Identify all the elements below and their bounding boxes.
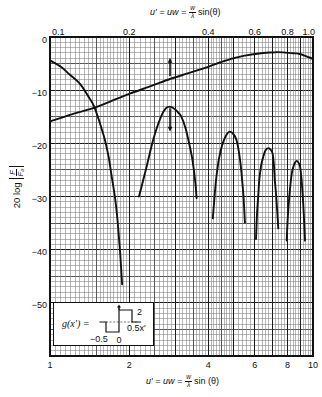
fraction-denominator: F₀ — [17, 169, 24, 177]
bottom-axis-title-lhs: u′ = uw = — [146, 376, 182, 386]
x-tick-label-top: 0.8 — [281, 27, 294, 37]
x-tick-label-top: 0.2 — [123, 27, 136, 37]
x-tick-label-top: 1.0 — [302, 27, 315, 37]
y-tick-label: −50 — [32, 300, 47, 310]
inset-label-origin: 0 — [116, 335, 121, 345]
bottom-axis-title-rhs: sin (θ) — [194, 376, 219, 386]
inset-function-label: g(x′) = — [62, 318, 90, 330]
fraction-denominator: λ — [191, 13, 194, 20]
inset-function-diagram: g(x′) =20.5x′−0.50 — [53, 302, 153, 345]
x-tick-label-bottom: 10 — [308, 360, 318, 370]
y-tick-label: −10 — [32, 88, 47, 98]
inset-label-right-x: 0.5x′ — [127, 323, 146, 333]
y-axis-title-prefix: 20 log — [11, 182, 22, 208]
series-curve-4 — [213, 132, 245, 223]
top-axis-title-fraction: w λ — [189, 5, 196, 19]
top-axis-title-rhs: sin(θ) — [198, 7, 221, 17]
y-tick-label: −40 — [32, 247, 47, 257]
x-tick-label-top: 0.1 — [52, 27, 65, 37]
bottom-axis-title-fraction: w λ — [185, 374, 192, 388]
series-curve-5 — [256, 148, 278, 239]
x-tick-label-bottom: 6 — [252, 360, 257, 370]
x-tick-label-bottom: 1 — [47, 360, 52, 370]
x-tick-label-top: 0.4 — [202, 27, 215, 37]
y-tick-label: −20 — [32, 141, 47, 151]
y-tick-label: 0 — [42, 35, 47, 45]
fraction-denominator: λ — [187, 382, 190, 389]
chart-figure: g(x′) =20.5x′−0.50 0−10−20−30−40−5012468… — [0, 0, 322, 397]
y-axis-title-fraction: F F₀ — [9, 169, 24, 177]
x-tick-label-bottom: 2 — [127, 360, 132, 370]
series-curve-1 — [50, 52, 313, 121]
chart-canvas: g(x′) =20.5x′−0.50 0−10−20−30−40−5012468… — [0, 0, 322, 397]
y-axis-title: 20 log F F₀ — [8, 147, 24, 227]
inset-label-left-x: −0.5 — [90, 334, 108, 344]
x-tick-label-bottom: 4 — [206, 360, 211, 370]
absolute-value-bars: F F₀ — [9, 166, 24, 180]
inset-label-height: 2 — [137, 307, 142, 317]
bottom-axis-title: u′ = uw = w λ sin (θ) — [146, 374, 219, 388]
y-tick-label: −30 — [32, 194, 47, 204]
x-tick-label-bottom: 8 — [285, 360, 290, 370]
top-axis-title: u′ = uw = w λ sin(θ) — [150, 5, 220, 19]
top-axis-title-lhs: u′ = uw = — [150, 7, 186, 17]
x-tick-label-top: 0.6 — [248, 27, 261, 37]
